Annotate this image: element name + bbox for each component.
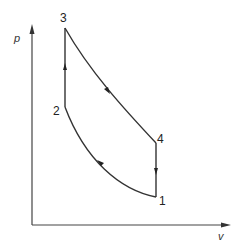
process-3-4 — [65, 28, 156, 143]
x-axis-label: v — [218, 230, 225, 242]
x-axis-arrow-icon — [221, 223, 231, 228]
point-label-2: 2 — [53, 104, 60, 118]
point-label-4: 4 — [157, 132, 164, 146]
process-1-2 — [65, 107, 156, 197]
y-axis-arrow-icon — [30, 24, 35, 34]
arrow-up-icon — [63, 63, 67, 70]
arrow-down-icon — [154, 168, 158, 175]
point-label-1: 1 — [159, 194, 166, 208]
y-axis — [30, 24, 35, 225]
pv-diagram: p v 3 2 4 1 — [0, 0, 243, 248]
point-label-3: 3 — [60, 11, 67, 25]
cycle — [65, 28, 156, 197]
y-axis-label: p — [13, 32, 20, 44]
x-axis — [32, 223, 231, 228]
